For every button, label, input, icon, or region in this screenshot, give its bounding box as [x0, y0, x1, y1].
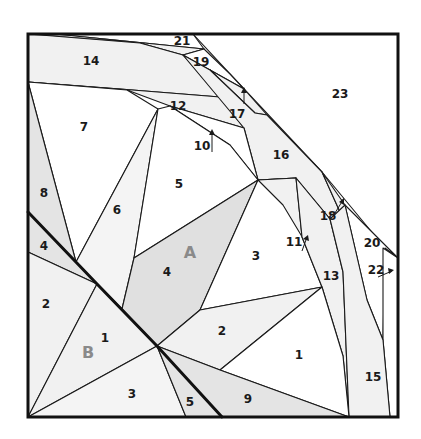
label-a4: 4	[163, 265, 171, 279]
label-b5: 5	[186, 395, 194, 409]
label-a1: 1	[295, 348, 303, 362]
section-label-b: B	[82, 343, 94, 362]
label-a20: 20	[364, 236, 381, 250]
section-label-a: A	[184, 243, 197, 262]
label-a23: 23	[332, 87, 349, 101]
label-a7: 7	[80, 120, 88, 134]
label-a3: 3	[252, 249, 260, 263]
label-a8: 8	[40, 186, 48, 200]
label-b4: 4	[40, 239, 48, 253]
label-a15: 15	[365, 370, 382, 384]
label-a16: 16	[273, 148, 290, 162]
label-a14: 14	[83, 54, 100, 68]
label-a11: 11	[286, 235, 303, 249]
label-a2: 2	[218, 324, 226, 338]
label-a19: 19	[193, 55, 210, 69]
label-b1: 1	[101, 331, 109, 345]
label-a17: 17	[229, 107, 246, 121]
label-a5: 5	[175, 177, 183, 191]
paper-piecing-diagram: 1 2 3 4 5 6 7 8 9 10 11 12 13 14 15 16 1…	[0, 0, 421, 439]
label-a12: 12	[170, 99, 187, 113]
label-a22: 22	[368, 263, 385, 277]
label-a9: 9	[244, 392, 252, 406]
label-a6: 6	[113, 203, 121, 217]
label-b3: 3	[128, 387, 136, 401]
label-a10: 10	[194, 139, 211, 153]
label-b2: 2	[42, 297, 50, 311]
label-a21: 21	[174, 34, 191, 48]
label-a18: 18	[320, 209, 337, 223]
label-a13: 13	[323, 269, 340, 283]
